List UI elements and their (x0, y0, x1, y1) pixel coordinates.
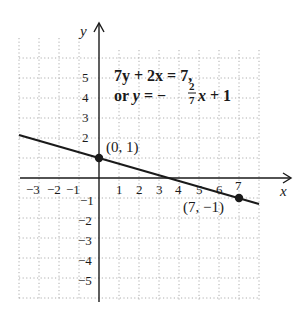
fraction-numerator: 2 (189, 80, 195, 92)
x-tick-label: 1 (116, 182, 123, 197)
x-tick-label: 4 (175, 182, 182, 197)
y-tick-label: −3 (78, 233, 92, 248)
y-tick-label: 5 (82, 70, 89, 85)
x-tick-label: 7 (235, 178, 242, 193)
x-tick-label: −1 (66, 182, 80, 197)
x-tick-label: 2 (136, 182, 143, 197)
y-tick-label: −4 (78, 253, 92, 268)
equation-line-2-suffix: x + 1 (197, 87, 231, 104)
y-tick-label: −5 (78, 273, 92, 288)
equation-annotation: 7y + 2x = 7, or y = − 2 7 x + 1 (114, 67, 231, 106)
y-tick-label: 2 (82, 130, 89, 145)
y-tick-labels: 5 4 3 2 −1 −2 −3 −4 −5 (78, 70, 94, 288)
y-tick-label: 3 (82, 110, 89, 125)
equation-line-1: 7y + 2x = 7, (114, 67, 192, 85)
x-tick-label: −2 (47, 182, 61, 197)
y-tick-label: −2 (78, 213, 92, 228)
x-tick-label: 5 (196, 182, 203, 197)
point-label-0-1: (0, 1) (106, 139, 139, 156)
line-graph: x y −3 −2 −1 1 2 3 4 5 6 7 5 4 3 2 −1 −2… (0, 0, 308, 319)
x-tick-labels: −3 −2 −1 1 2 3 4 5 6 7 (26, 178, 242, 197)
y-tick-label: −1 (80, 193, 94, 208)
x-axis-title: x (279, 183, 287, 199)
x-tick-label: 6 (216, 182, 223, 197)
point-label-7-neg1: (7, −1) (183, 199, 224, 216)
x-tick-label: 3 (156, 182, 163, 197)
y-tick-label: 4 (82, 90, 89, 105)
fraction-denominator: 7 (189, 94, 195, 106)
point-7-neg1 (235, 194, 243, 202)
x-tick-label: −3 (26, 182, 40, 197)
y-axis-title: y (78, 23, 87, 39)
equation-line-2: or y = − (114, 87, 166, 105)
point-0-1 (95, 154, 103, 162)
